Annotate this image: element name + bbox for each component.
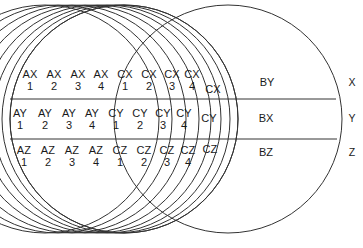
region-by: BY <box>260 76 275 88</box>
venn-diagram-svg <box>0 0 363 248</box>
region-bz: BZ <box>259 146 273 158</box>
circle-left-8 <box>10 5 238 233</box>
circle-b <box>114 5 342 233</box>
axis-marker-z: Z <box>349 146 355 158</box>
axis-marker-y: Y <box>348 112 355 124</box>
circle-left-4 <box>0 5 199 233</box>
circle-left-5 <box>0 5 211 233</box>
circle-a <box>0 5 159 233</box>
circle-left-7 <box>2 5 230 233</box>
axis-marker-x: X <box>348 76 355 88</box>
circle-left-3 <box>0 5 186 233</box>
circle-left-6 <box>0 5 221 233</box>
circle-left-1 <box>10 5 238 233</box>
region-bx: BX <box>259 112 274 124</box>
venn-diagram: AX1 AX2 AX3 AX4 CX1 CX2 CX3 CX4 CX BY X … <box>0 0 363 248</box>
